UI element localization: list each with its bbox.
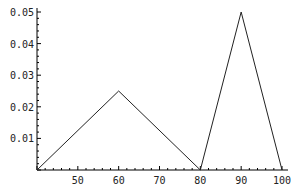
- x-tick-label: 100: [273, 175, 291, 186]
- chart: 50607080901000.010.020.030.040.05: [0, 0, 297, 190]
- y-tick-label: 0.04: [10, 39, 34, 50]
- x-tick-label: 80: [194, 175, 206, 186]
- x-tick-label: 70: [153, 175, 165, 186]
- data-line: [37, 12, 282, 170]
- y-tick-label: 0.03: [10, 70, 34, 81]
- x-tick-label: 60: [113, 175, 125, 186]
- y-tick-label: 0.02: [10, 102, 34, 113]
- plot-area: 50607080901000.010.020.030.040.05: [10, 7, 291, 186]
- x-tick-label: 90: [235, 175, 247, 186]
- x-tick-label: 50: [72, 175, 84, 186]
- y-tick-label: 0.05: [10, 7, 34, 18]
- y-tick-label: 0.01: [10, 133, 34, 144]
